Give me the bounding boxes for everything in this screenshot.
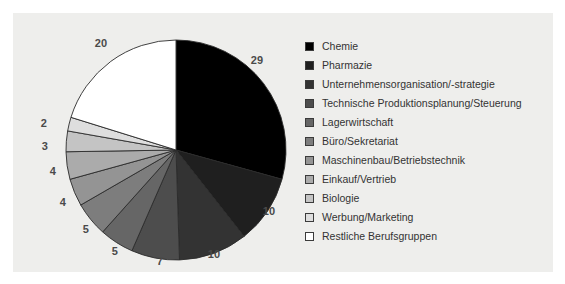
legend-swatch-icon [305,232,314,241]
legend-swatch-icon [305,118,314,127]
pie-data-label: 5 [112,245,118,257]
legend-item: Chemie [305,37,553,56]
legend-item: Restliche Berufsgruppen [305,227,553,246]
pie-chart: 291010755443220 [13,13,313,272]
legend-item: Lagerwirtschaft [305,113,553,132]
legend-item-label: Technische Produktionsplanung/Steuerung [322,98,522,109]
legend-swatch-icon [305,61,314,70]
legend-item: Werbung/Marketing [305,208,553,227]
legend-swatch-icon [305,99,314,108]
legend-item-label: Lagerwirtschaft [322,117,393,128]
legend-item-label: Werbung/Marketing [322,212,413,223]
pie-data-label: 10 [263,205,276,217]
legend-item-label: Unternehmensorganisation/-strategie [322,79,495,90]
legend-item: Unternehmensorganisation/-strategie [305,75,553,94]
legend-item-label: Restliche Berufsgruppen [322,231,437,242]
pie-data-label: 7 [157,255,163,267]
legend-item: Einkauf/Vertrieb [305,170,553,189]
chart-card: 291010755443220 ChemiePharmazieUnternehm… [13,13,553,272]
pie-data-label: 3 [42,140,48,152]
legend-item: Büro/Sekretariat [305,132,553,151]
legend-swatch-icon [305,175,314,184]
legend-item-label: Einkauf/Vertrieb [322,174,396,185]
legend-swatch-icon [305,156,314,165]
legend-item: Technische Produktionsplanung/Steuerung [305,94,553,113]
pie-data-label: 2 [41,117,47,129]
screenshot-root: 291010755443220 ChemiePharmazieUnternehm… [0,0,565,284]
pie-data-label: 5 [83,223,89,235]
legend-item: Maschinenbau/Betriebstechnik [305,151,553,170]
pie-chart-svg [13,13,313,272]
legend-swatch-icon [305,213,314,222]
legend-swatch-icon [305,194,314,203]
legend-item: Biologie [305,189,553,208]
legend-swatch-icon [305,137,314,146]
pie-slice-group [66,40,286,260]
pie-data-label: 4 [60,196,66,208]
pie-data-label: 10 [208,248,221,260]
pie-data-label: 4 [50,165,56,177]
legend-item-label: Pharmazie [322,60,372,71]
legend-item-label: Maschinenbau/Betriebstechnik [322,155,465,166]
legend-swatch-icon [305,42,314,51]
pie-data-label: 29 [251,54,264,66]
legend-item: Pharmazie [305,56,553,75]
legend-item-label: Chemie [322,41,358,52]
pie-data-label: 20 [95,37,108,49]
legend-item-label: Büro/Sekretariat [322,136,398,147]
chart-legend: ChemiePharmazieUnternehmensorganisation/… [305,37,553,246]
legend-swatch-icon [305,80,314,89]
legend-item-label: Biologie [322,193,359,204]
